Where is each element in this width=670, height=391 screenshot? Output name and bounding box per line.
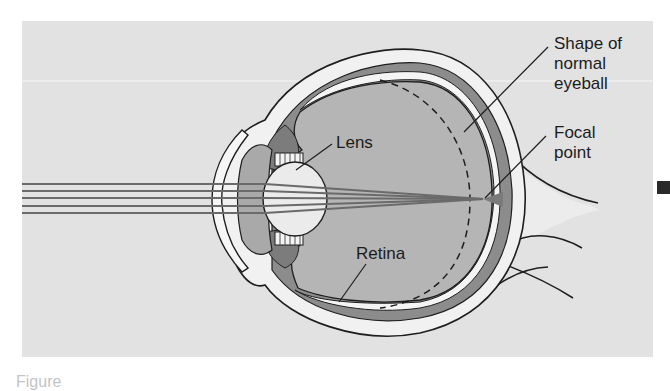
label-line: normal: [554, 54, 622, 74]
page-marker: [657, 181, 670, 194]
label-line: Shape of: [554, 34, 622, 54]
label-shape-of-normal-eyeball: Shape of normal eyeball: [554, 34, 622, 94]
label-retina: Retina: [356, 244, 405, 264]
label-line: eyeball: [554, 74, 622, 94]
label-line: point: [554, 143, 596, 163]
figure-caption: Figure: [16, 373, 61, 391]
label-focal-point: Focal point: [554, 123, 596, 163]
label-lens: Lens: [336, 133, 373, 153]
label-line: Focal: [554, 123, 596, 143]
